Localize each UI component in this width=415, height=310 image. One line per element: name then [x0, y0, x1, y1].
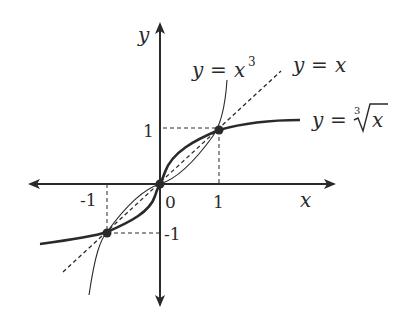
- y-axis-label: y: [137, 23, 150, 47]
- svg-text:=: =: [311, 53, 328, 77]
- svg-text:x: x: [372, 108, 383, 132]
- identity-line-label: y = x: [292, 53, 346, 77]
- point-neg1-neg1: [103, 229, 112, 238]
- intersection-points: [103, 126, 224, 238]
- point-1-1: [215, 126, 224, 135]
- svg-text:=: =: [210, 58, 227, 82]
- svg-text:3: 3: [354, 105, 360, 116]
- svg-text:x: x: [335, 53, 346, 77]
- tick-x-1: 1: [213, 192, 224, 212]
- svg-text:y: y: [292, 53, 305, 77]
- tick-x-neg1: -1: [80, 190, 97, 210]
- cube-root-curve-label: y = 3 x: [311, 104, 388, 132]
- tick-x-0: 0: [165, 192, 176, 212]
- svg-text:3: 3: [248, 55, 256, 69]
- cube-curve-label: y = x 3: [191, 55, 256, 82]
- function-graph-diagram: y x -1 0 1 1 -1 y = x 3 y = x y = 3 x: [0, 0, 415, 310]
- tick-y-1: 1: [143, 121, 154, 141]
- svg-text:x: x: [234, 58, 245, 82]
- svg-text:=: =: [330, 108, 347, 132]
- tick-y-neg1: -1: [164, 224, 181, 244]
- x-axis-label: x: [300, 188, 311, 212]
- svg-text:y: y: [311, 108, 324, 132]
- svg-text:y: y: [191, 58, 204, 82]
- point-origin: [156, 180, 165, 189]
